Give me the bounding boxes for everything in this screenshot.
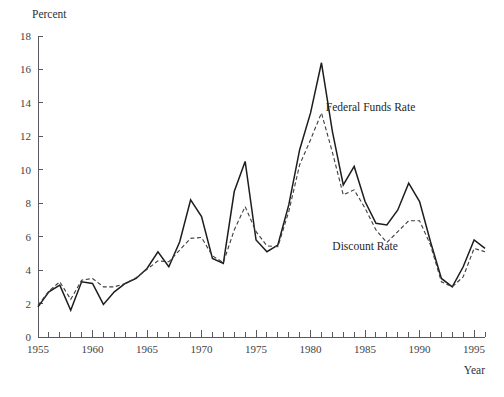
x-axis-tick-label: 1980	[300, 343, 323, 355]
y-axis-tick-label: 4	[26, 264, 32, 276]
y-axis-tick-label: 0	[26, 331, 32, 343]
y-axis-tick-label: 14	[20, 97, 32, 109]
x-axis-tick-label: 1995	[463, 343, 486, 355]
series-line	[38, 113, 485, 305]
x-axis-tick-label: 1965	[136, 343, 159, 355]
x-axis-tick-label: 1990	[409, 343, 432, 355]
series-line	[38, 63, 485, 310]
series-lines	[38, 63, 485, 310]
y-axis-title: Percent	[32, 8, 67, 20]
x-axis-tick-label: 1970	[191, 343, 214, 355]
x-axis-tick-label: 1975	[245, 343, 268, 355]
y-axis-tick-label: 12	[20, 130, 31, 142]
series-label: Discount Rate	[332, 240, 397, 252]
axes: 0246810121416181955196019651970197519801…	[20, 30, 486, 355]
y-axis-tick-label: 16	[20, 63, 32, 75]
y-axis-tick-label: 2	[26, 298, 32, 310]
y-axis-tick-label: 18	[20, 30, 32, 42]
x-axis-title: Year	[464, 364, 485, 376]
x-axis-tick-label: 1960	[82, 343, 105, 355]
line-chart: 0246810121416181955196019651970197519801…	[0, 0, 504, 397]
y-axis-tick-label: 6	[26, 231, 32, 243]
x-axis-tick-label: 1985	[354, 343, 377, 355]
chart-container: 0246810121416181955196019651970197519801…	[0, 0, 504, 397]
x-axis-tick-label: 1955	[27, 343, 50, 355]
y-axis-tick-label: 8	[26, 197, 32, 209]
series-label: Federal Funds Rate	[326, 101, 415, 113]
page-caption-fragment	[0, 385, 504, 397]
series-annotations: Federal Funds RateDiscount Rate	[326, 101, 415, 252]
y-axis-tick-label: 10	[20, 164, 32, 176]
